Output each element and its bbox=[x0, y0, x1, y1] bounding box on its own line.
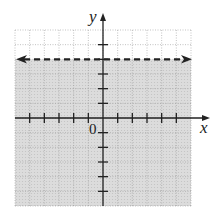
y-axis-label: y bbox=[87, 7, 97, 26]
origin-label: 0 bbox=[89, 121, 97, 137]
y-axis-arrow-icon bbox=[100, 13, 106, 21]
coordinate-plane: y x 0 bbox=[0, 0, 221, 213]
x-axis-label: x bbox=[199, 118, 208, 137]
